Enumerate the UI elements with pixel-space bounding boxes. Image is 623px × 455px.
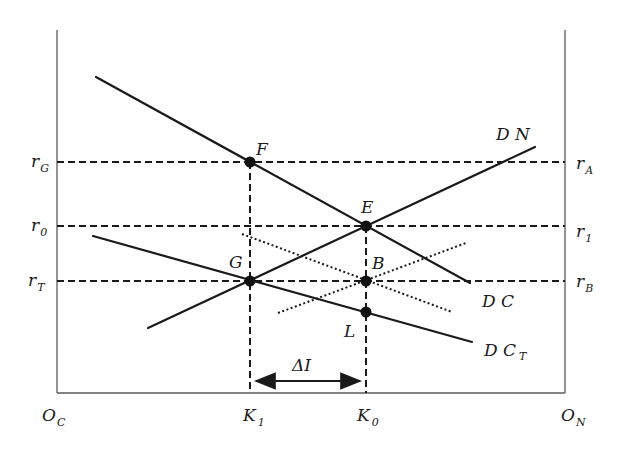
label-r0: r0 (31, 215, 47, 239)
label-rA: rA (576, 153, 593, 177)
origin-oc: OC (42, 405, 66, 429)
label-rG: rG (31, 151, 49, 175)
label-rB: rB (576, 271, 593, 295)
curve-dct-label-main: D C (483, 340, 516, 360)
label-r1: r1 (576, 221, 592, 245)
curve-dn (148, 147, 535, 328)
label-k1: K1 (242, 405, 265, 429)
point-e-label: E (360, 197, 374, 217)
curve-dn-label: D N (495, 124, 531, 144)
point-g-label: G (229, 252, 243, 272)
curve-dc-label: D C (481, 291, 514, 311)
origin-on: ON (561, 405, 586, 429)
curve-dct-label: D CT (483, 340, 528, 363)
point-b (361, 276, 372, 287)
curve-dc-shifted-dotted (242, 234, 452, 312)
point-f (245, 157, 256, 168)
delta-i-label: ΔI (291, 355, 311, 375)
point-f-label: F (255, 139, 269, 159)
label-k0: K0 (356, 405, 379, 429)
point-e (361, 221, 372, 232)
point-l (361, 307, 372, 318)
curve-dct-label-sub: T (519, 350, 528, 363)
label-rT: rT (28, 270, 46, 294)
diagram-canvas: ΔI F E G B L D N D C D CT rG r0 rT rA r1… (0, 0, 623, 455)
point-l-label: L (343, 321, 355, 341)
point-g (245, 276, 256, 287)
point-b-label: B (371, 253, 385, 273)
